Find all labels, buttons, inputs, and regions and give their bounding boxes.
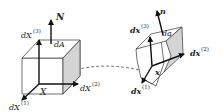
deformed-edge-label-3: dx (3)	[130, 23, 149, 35]
reference-normal-label: N	[55, 12, 65, 22]
svg-text:dx: dx	[131, 86, 142, 96]
svg-text:dX: dX	[21, 31, 32, 40]
deformed-position-label: x	[154, 67, 160, 77]
reference-edge-label-3: dX (3)	[21, 28, 41, 40]
svg-text:(2): (2)	[201, 46, 209, 52]
svg-text:(1): (1)	[142, 84, 150, 90]
volume-element-diagram: N dA X dX (3) dX (2) dX (1) n da x dx (3…	[0, 0, 222, 112]
svg-text:dX: dX	[80, 84, 91, 93]
reference-edge-label-2: dX (2)	[80, 81, 100, 93]
reference-cube	[22, 40, 80, 94]
svg-text:dx: dx	[130, 25, 141, 35]
deformed-normal-label: n	[160, 6, 166, 16]
deformed-edge-label-2: dx (2)	[190, 46, 209, 58]
reference-area-label: dA	[54, 40, 65, 49]
reference-position-label: X	[39, 87, 47, 97]
svg-text:(1): (1)	[21, 100, 29, 106]
deformed-area-label: da	[162, 29, 172, 38]
svg-text:(2): (2)	[92, 81, 100, 87]
svg-text:(3): (3)	[33, 28, 41, 34]
svg-text:(3): (3)	[141, 23, 149, 29]
svg-text:dx: dx	[190, 48, 201, 58]
svg-text:dX: dX	[9, 103, 20, 112]
deformed-edge-label-1: dx (1)	[131, 84, 150, 96]
reference-edge-label-1: dX (1)	[9, 100, 29, 112]
